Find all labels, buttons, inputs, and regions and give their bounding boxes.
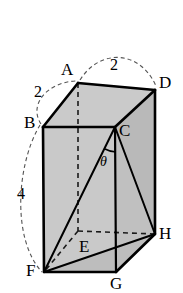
rectangular-box-drawing xyxy=(0,0,183,293)
vertex-label-B: B xyxy=(24,114,35,131)
edge-CG xyxy=(115,127,116,272)
vertex-label-E: E xyxy=(79,238,89,255)
edge-BF xyxy=(43,127,44,272)
vertex-label-F: F xyxy=(26,262,35,279)
vertex-label-C: C xyxy=(119,122,130,139)
dimension-label-ad: 2 xyxy=(110,57,118,73)
vertex-label-H: H xyxy=(159,225,171,242)
vertex-label-A: A xyxy=(61,61,73,78)
angle-label-theta: θ xyxy=(100,155,107,169)
dimension-label-bf: 4 xyxy=(17,186,25,202)
vertex-label-D: D xyxy=(159,74,171,91)
dimension-label-ba: 2 xyxy=(34,84,42,100)
vertex-label-G: G xyxy=(110,275,122,292)
geometry-figure: A B C D E F G H 2 2 4 θ xyxy=(0,0,183,293)
dim-arc-AD xyxy=(80,57,156,86)
